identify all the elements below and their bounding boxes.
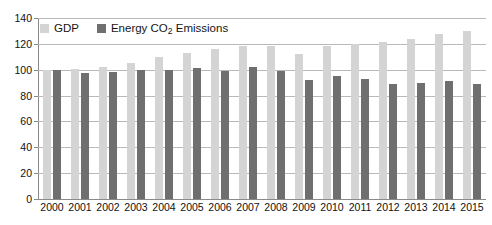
bar-gdp-2005 — [183, 53, 191, 199]
x-tick-label-2009: 2009 — [290, 201, 318, 214]
legend-label-co2: Energy CO2 Emissions — [111, 23, 228, 35]
x-tick-label-2002: 2002 — [94, 201, 122, 214]
y-tick-label-80: 80 — [0, 91, 32, 102]
legend-entry-co2: Energy CO2 Emissions — [97, 23, 228, 35]
bar-gdp-2001 — [71, 69, 79, 199]
bar-gdp-2003 — [127, 63, 135, 199]
bar-group — [290, 18, 318, 199]
y-tick-label-100: 100 — [0, 65, 32, 76]
y-tick-label-20: 20 — [0, 168, 32, 179]
bar-group — [402, 18, 430, 199]
x-tick-label-2010: 2010 — [318, 201, 346, 214]
x-tick-label-2014: 2014 — [430, 201, 458, 214]
bar-gdp-2007 — [239, 46, 247, 199]
bar-group — [122, 18, 150, 199]
bar-group — [38, 18, 66, 199]
y-tick-label-120: 120 — [0, 39, 32, 50]
bar-co2-2007 — [249, 67, 257, 199]
x-tick-label-2011: 2011 — [346, 201, 374, 214]
bar-gdp-2002 — [99, 67, 107, 199]
bar-co2-2009 — [305, 80, 313, 199]
bar-co2-2010 — [333, 76, 341, 199]
bar-group — [430, 18, 458, 199]
plot-area — [38, 18, 486, 199]
bar-group — [66, 18, 94, 199]
bar-group — [234, 18, 262, 199]
bar-co2-2015 — [473, 84, 481, 199]
bar-co2-2003 — [137, 70, 145, 199]
bar-group — [94, 18, 122, 199]
bar-group — [206, 18, 234, 199]
x-tick-label-2000: 2000 — [38, 201, 66, 214]
bar-gdp-2015 — [463, 31, 471, 199]
bar-gdp-2014 — [435, 34, 443, 199]
bar-gdp-2004 — [155, 57, 163, 199]
x-tick-label-2015: 2015 — [458, 201, 486, 214]
y-tick-label-140: 140 — [0, 13, 32, 24]
gdp-swatch-icon — [40, 24, 49, 33]
bar-chart: 020406080100120140 200020012002200320042… — [0, 0, 492, 225]
bar-gdp-2010 — [323, 46, 331, 199]
bars-layer — [38, 18, 486, 199]
bar-group — [150, 18, 178, 199]
bar-gdp-2013 — [407, 39, 415, 199]
bar-gdp-2011 — [351, 44, 359, 199]
bar-co2-2001 — [81, 73, 89, 199]
bar-group — [374, 18, 402, 199]
co2-swatch-icon — [97, 24, 106, 33]
bar-group — [346, 18, 374, 199]
legend-label-gdp: GDP — [54, 23, 79, 35]
x-tick-label-2013: 2013 — [402, 201, 430, 214]
bar-co2-2004 — [165, 70, 173, 199]
legend-entry-gdp: GDP — [40, 23, 79, 35]
bar-group — [318, 18, 346, 199]
x-tick-label-2001: 2001 — [66, 201, 94, 214]
bar-gdp-2008 — [267, 46, 275, 199]
bar-gdp-2000 — [43, 70, 51, 199]
bar-co2-2000 — [53, 70, 61, 199]
x-tick-label-2008: 2008 — [262, 201, 290, 214]
y-tick-label-0: 0 — [0, 194, 32, 205]
bar-co2-2013 — [417, 83, 425, 199]
bar-co2-2005 — [193, 68, 201, 199]
x-tick-label-2003: 2003 — [122, 201, 150, 214]
bar-group — [262, 18, 290, 199]
x-axis-labels: 2000200120022003200420052006200720082009… — [38, 201, 486, 217]
gridline-0 — [38, 199, 486, 200]
bar-co2-2008 — [277, 71, 285, 199]
bar-co2-2014 — [445, 81, 453, 199]
chart-legend: GDP Energy CO2 Emissions — [40, 23, 228, 35]
bar-gdp-2009 — [295, 54, 303, 199]
x-tick-label-2007: 2007 — [234, 201, 262, 214]
x-tick-label-2004: 2004 — [150, 201, 178, 214]
bar-co2-2012 — [389, 84, 397, 199]
y-tick-label-40: 40 — [0, 142, 32, 153]
bar-gdp-2006 — [211, 49, 219, 199]
bar-group — [178, 18, 206, 199]
y-tick-label-60: 60 — [0, 116, 32, 127]
x-tick-label-2005: 2005 — [178, 201, 206, 214]
x-tick-label-2006: 2006 — [206, 201, 234, 214]
bar-co2-2011 — [361, 79, 369, 199]
bar-group — [458, 18, 486, 199]
bar-co2-2006 — [221, 71, 229, 199]
bar-gdp-2012 — [379, 42, 387, 199]
x-tick-label-2012: 2012 — [374, 201, 402, 214]
bar-co2-2002 — [109, 72, 117, 199]
